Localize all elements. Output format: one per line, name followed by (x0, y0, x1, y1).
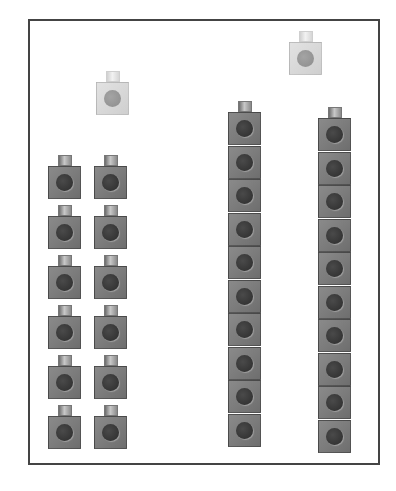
tower-middle-cube (228, 245, 261, 279)
cube-hole-icon (236, 321, 253, 338)
cube-hole-icon (56, 424, 73, 441)
cube-face (48, 166, 81, 199)
cube-face (48, 266, 81, 299)
cube-face (318, 185, 351, 218)
cube-face (228, 246, 261, 279)
loose-column-right-cube (94, 215, 127, 249)
cube-face (48, 316, 81, 349)
tower-right-cube (318, 184, 351, 218)
cube-hole-icon (236, 254, 253, 271)
loose-column-left-cube (48, 365, 81, 399)
cube-face (94, 216, 127, 249)
cube-connector-stud (104, 355, 118, 366)
cube-connector-stud (104, 255, 118, 266)
cube-face (228, 280, 261, 313)
cube-hole-icon (236, 355, 253, 372)
cube-hole-icon (102, 224, 119, 241)
cube-face (318, 152, 351, 185)
tower-middle-cube (228, 178, 261, 212)
loose-column-left-cube (48, 265, 81, 299)
cube-face (289, 42, 322, 75)
cube-hole-icon (102, 374, 119, 391)
cube-hole-icon (326, 361, 343, 378)
cube-hole-icon (236, 288, 253, 305)
cube-hole-icon (56, 174, 73, 191)
tower-middle-cube (228, 413, 261, 447)
loose-column-right-cube (94, 315, 127, 349)
cube-connector-stud (104, 305, 118, 316)
tower-right-cube (318, 352, 351, 386)
cube-face (228, 347, 261, 380)
cube-face (94, 366, 127, 399)
cube-hole-icon (102, 324, 119, 341)
loose-column-left-cube (48, 215, 81, 249)
cube-connector-stud (299, 31, 313, 42)
cube-hole-icon (236, 221, 253, 238)
cube-hole-icon (236, 120, 253, 137)
cube-hole-icon (56, 374, 73, 391)
cube-connector-stud (58, 405, 72, 416)
tower-right-cube (318, 318, 351, 352)
cube-connector-stud (58, 205, 72, 216)
cube-hole-icon (104, 90, 121, 107)
cube-connector-stud (104, 405, 118, 416)
cube-connector-stud (104, 155, 118, 166)
single-light-right-cube (289, 41, 322, 75)
tower-right-cube (318, 285, 351, 319)
loose-column-left-cube (48, 315, 81, 349)
cube-hole-icon (326, 126, 343, 143)
cube-face (94, 266, 127, 299)
cube-hole-icon (56, 324, 73, 341)
cube-hole-icon (236, 422, 253, 439)
tower-right-cube (318, 251, 351, 285)
cube-hole-icon (102, 174, 119, 191)
cube-hole-icon (326, 428, 343, 445)
cube-face (48, 366, 81, 399)
cube-face (228, 112, 261, 145)
cube-face (318, 219, 351, 252)
loose-column-right-cube (94, 415, 127, 449)
loose-column-left-cube (48, 415, 81, 449)
cube-face (94, 166, 127, 199)
tower-middle-cube (228, 379, 261, 413)
cube-hole-icon (56, 224, 73, 241)
cube-face (228, 213, 261, 246)
cube-connector-stud (238, 101, 252, 112)
single-light-left-cube (96, 81, 129, 115)
cube-face (94, 416, 127, 449)
cube-connector-stud (58, 305, 72, 316)
tower-middle-cube (228, 212, 261, 246)
cube-hole-icon (326, 394, 343, 411)
tower-middle-cube (228, 346, 261, 380)
cube-hole-icon (326, 327, 343, 344)
cube-face (228, 380, 261, 413)
cube-hole-icon (326, 294, 343, 311)
cube-connector-stud (58, 155, 72, 166)
cube-face (228, 146, 261, 179)
tower-middle-cube (228, 279, 261, 313)
cube-hole-icon (102, 424, 119, 441)
cube-face (318, 252, 351, 285)
cube-face (318, 353, 351, 386)
cube-face (48, 216, 81, 249)
cube-connector-stud (58, 255, 72, 266)
tower-right-cube (318, 117, 351, 151)
cube-hole-icon (56, 274, 73, 291)
cube-face (96, 82, 129, 115)
cube-connector-stud (104, 205, 118, 216)
tower-middle-cube (228, 111, 261, 145)
cube-hole-icon (102, 274, 119, 291)
cube-connector-stud (106, 71, 120, 82)
cube-face (228, 179, 261, 212)
tower-middle-cube (228, 145, 261, 179)
cube-face (94, 316, 127, 349)
cube-hole-icon (297, 50, 314, 67)
cube-hole-icon (236, 388, 253, 405)
loose-column-right-cube (94, 165, 127, 199)
cube-face (318, 118, 351, 151)
loose-column-right-cube (94, 265, 127, 299)
cube-face (318, 420, 351, 453)
tower-right-cube (318, 419, 351, 453)
cube-face (228, 313, 261, 346)
cube-face (228, 414, 261, 447)
